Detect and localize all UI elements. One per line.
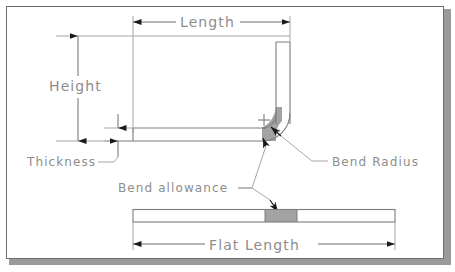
horizontal-arm-outline [133,128,266,141]
bent-part-geometry [133,42,290,141]
label-length: Length [176,15,239,29]
diagram-drawing [0,0,455,272]
bend-allowance-region [265,210,297,223]
label-bend-allowance: Bend allowance [116,182,230,194]
callout-bend-allowance [238,138,278,212]
label-height: Height [46,79,105,93]
bend-allowance-leader-lower [238,188,270,200]
callout-bend-radius [271,127,328,161]
thickness-leader [96,157,118,162]
bend-radius-leader [281,136,328,161]
dimension-length [133,16,290,133]
flat-blank-geometry [133,210,395,223]
flat-blank-outline [133,210,395,223]
label-bend-radius: Bend Radius [330,156,421,168]
bend-allowance-leader-upper [238,146,266,188]
label-thickness: Thickness [25,156,98,168]
label-flat-length: Flat Length [205,238,304,252]
diagram-canvas: Length Height Thickness Bend Radius Bend… [0,0,455,272]
dimension-thickness [96,114,133,162]
